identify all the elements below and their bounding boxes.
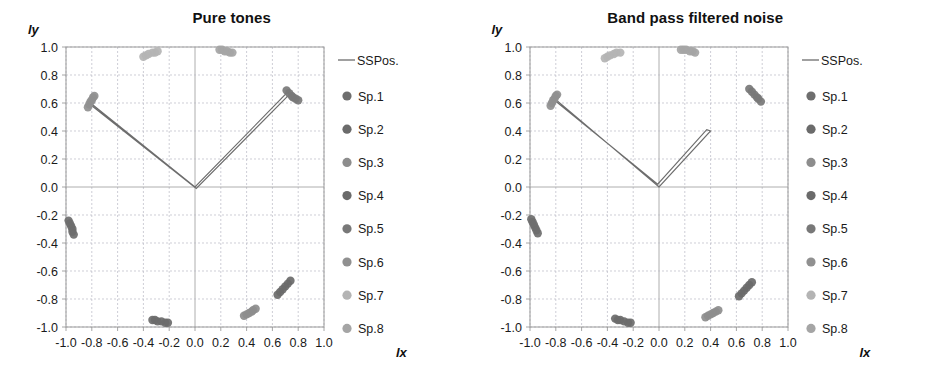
legend-marker-sp1 [806, 91, 815, 100]
plot-canvas: 1.00.80.60.40.20.0-0.2-0.4-0.6-0.8-1.0-1… [464, 0, 927, 387]
y-tick-label: -0.8 [36, 293, 58, 307]
legend-marker-sp8 [806, 324, 815, 333]
legend-label-sp4: Sp.4 [822, 189, 848, 203]
x-tick-label: -0.2 [622, 336, 644, 350]
x-tick-label: 0.2 [676, 336, 693, 350]
y-tick-label: 1.0 [504, 41, 521, 55]
data-point [294, 96, 302, 104]
series-sp2 [610, 314, 634, 327]
series-sp4 [273, 277, 294, 299]
data-point [164, 319, 172, 327]
legend-marker-sp5 [806, 224, 815, 233]
two-panel-scatter-figure: Pure tones ly lx 1.00.80.60.40.20.0-0.2-… [0, 0, 927, 387]
legend-label-sp3: Sp.3 [358, 156, 384, 170]
plot-canvas: 1.00.80.60.40.20.0-0.2-0.4-0.6-0.8-1.0-1… [0, 0, 463, 387]
legend-marker-sp8 [342, 324, 351, 333]
y-tick-label: 1.0 [41, 41, 58, 55]
series-sp6 [546, 90, 561, 110]
series-sp1 [527, 215, 542, 237]
y-tick-label: 0.2 [41, 153, 58, 167]
x-tick-label: 0.2 [212, 336, 229, 350]
y-tick-label: -1.0 [36, 321, 58, 335]
y-tick-label: 0.6 [504, 97, 521, 111]
ssposition-line [553, 97, 710, 187]
x-tick-label: 0.4 [238, 336, 255, 350]
y-tick-label: 0.8 [41, 69, 58, 83]
legend-label-ssposition: SSPos. [821, 54, 863, 68]
data-point [616, 48, 624, 56]
legend: SSPos.Sp.1Sp.2Sp.3Sp.4Sp.5Sp.6Sp.7Sp.8 [338, 54, 399, 336]
data-point [714, 306, 722, 314]
legend-marker-sp2 [342, 125, 351, 134]
series-sp4 [734, 278, 755, 300]
y-tick-label: 0.0 [41, 181, 58, 195]
x-tick-label: 0.8 [290, 336, 307, 350]
data-point [90, 92, 98, 100]
x-tick-label: -0.4 [133, 336, 155, 350]
series-sp3 [701, 306, 722, 321]
x-tick-label: -0.8 [81, 336, 103, 350]
data-point [747, 278, 755, 286]
y-tick-label: -0.6 [36, 265, 58, 279]
panel-pure-tones: Pure tones ly lx 1.00.80.60.40.20.0-0.2-… [0, 0, 464, 387]
legend-label-sp7: Sp.7 [358, 289, 384, 303]
legend-label-sp4: Sp.4 [358, 189, 384, 203]
data-point [70, 230, 78, 238]
y-tick-label: 0.8 [504, 69, 521, 83]
legend-marker-sp7 [342, 291, 351, 300]
legend-label-ssposition: SSPos. [357, 54, 399, 68]
series-sp7 [139, 47, 162, 61]
legend-marker-sp7 [806, 291, 815, 300]
y-tick-label: -0.6 [500, 265, 522, 279]
y-tick-label: 0.2 [504, 153, 521, 167]
data-point [153, 47, 161, 55]
legend-label-sp2: Sp.2 [358, 123, 384, 137]
y-tick-label: -0.8 [500, 293, 522, 307]
x-tick-label: 1.0 [315, 336, 332, 350]
series-sp7 [600, 48, 624, 62]
legend-label-sp7: Sp.7 [822, 289, 848, 303]
y-tick-label: -0.2 [500, 209, 522, 223]
data-point [552, 90, 560, 98]
x-tick-label: -0.2 [158, 336, 180, 350]
legend-marker-sp1 [342, 91, 351, 100]
data-point [690, 48, 698, 56]
legend-marker-sp6 [806, 257, 815, 266]
ssposition-line [91, 92, 290, 189]
legend-marker-sp3 [342, 158, 351, 167]
x-tick-label: -0.6 [107, 336, 129, 350]
legend-label-sp6: Sp.6 [822, 256, 848, 270]
legend-label-sp1: Sp.1 [358, 90, 384, 104]
y-tick-label: -1.0 [500, 321, 522, 335]
x-tick-label: 0.8 [753, 336, 770, 350]
legend-marker-sp6 [342, 257, 351, 266]
y-tick-label: -0.4 [500, 237, 522, 251]
data-point [533, 229, 541, 237]
legend-marker-sp5 [342, 224, 351, 233]
x-tick-label: 0.6 [264, 336, 281, 350]
data-point [626, 319, 634, 327]
x-tick-label: 0.0 [186, 336, 203, 350]
y-tick-label: -0.4 [36, 237, 58, 251]
legend-marker-sp3 [806, 158, 815, 167]
data-point [251, 305, 259, 313]
legend: SSPos.Sp.1Sp.2Sp.3Sp.4Sp.5Sp.6Sp.7Sp.8 [802, 54, 863, 336]
panel-band-pass-filtered-noise: Band pass filtered noise ly lx 1.00.80.6… [464, 0, 927, 387]
y-tick-label: 0.4 [41, 125, 58, 139]
x-tick-label: -0.4 [596, 336, 618, 350]
legend-label-sp5: Sp.5 [358, 222, 384, 236]
y-tick-label: 0.4 [504, 125, 521, 139]
x-tick-label: 1.0 [779, 336, 796, 350]
legend-label-sp5: Sp.5 [822, 222, 848, 236]
x-tick-label: -1.0 [55, 336, 77, 350]
data-point [286, 277, 294, 285]
data-point [228, 48, 236, 56]
series-sp5 [282, 86, 302, 104]
series-sp3 [240, 305, 260, 320]
y-tick-label: 0.0 [504, 181, 521, 195]
series-sp6 [84, 92, 99, 112]
x-tick-label: 0.6 [727, 336, 744, 350]
legend-label-sp1: Sp.1 [822, 90, 848, 104]
legend-label-sp8: Sp.8 [358, 322, 384, 336]
legend-marker-sp4 [806, 191, 815, 200]
